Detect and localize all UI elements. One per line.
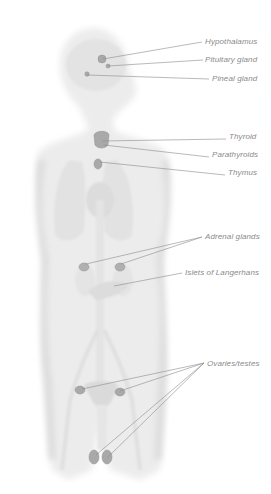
thymus-gland [94,159,102,169]
label-parathyroids: Parathyroids [212,150,258,159]
label-islets-of-langerhans: Islets of Langerhans [185,268,259,277]
adrenal-right [115,263,125,271]
label-pineal-gland: Pineal gland [212,74,257,83]
ovary-right [115,388,125,396]
label-thymus: Thymus [228,168,257,177]
brain-shape [66,39,126,91]
label-adrenal-glands: Adrenal glands [205,232,260,241]
label-pituitary-gland: Pituitary gland [205,55,257,64]
penis-shape [97,405,107,450]
testis-left [89,450,99,464]
pineal-gland [85,72,89,76]
adrenal-left [79,263,89,271]
hypothalamus-gland [98,55,106,63]
label-thyroid: Thyroid [229,132,256,141]
testis-right [102,450,112,464]
label-ovaries-testes: Ovaries/testes [207,359,260,368]
endocrine-diagram: Hypothalamus Pituitary gland Pineal glan… [0,0,271,494]
ovary-left [75,386,85,394]
label-hypothalamus: Hypothalamus [205,37,257,46]
